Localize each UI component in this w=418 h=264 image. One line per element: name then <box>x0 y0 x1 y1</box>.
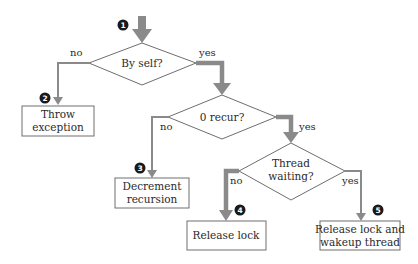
svg-text:Thread: Thread <box>272 157 310 169</box>
action-throw-exception: Throw exception <box>22 106 94 136</box>
svg-text:recursion: recursion <box>127 193 178 205</box>
action-decrement-recursion: Decrement recursion <box>115 178 189 208</box>
edge-by-self-yes <box>196 63 231 95</box>
decision-thread-waiting: Thread waiting? <box>239 143 345 200</box>
step-marker-5: 5 <box>373 205 384 216</box>
step-marker-1: 1 <box>118 20 129 31</box>
edge-zero-recur-yes <box>276 117 299 143</box>
svg-text:exception: exception <box>32 121 84 133</box>
svg-text:Throw: Throw <box>41 108 75 120</box>
edge-label-thread-waiting-no: no <box>230 175 242 186</box>
edge-label-by-self-yes: yes <box>198 47 216 58</box>
svg-text:0 recur?: 0 recur? <box>200 111 245 123</box>
svg-text:By self?: By self? <box>121 57 163 69</box>
edge-label-thread-waiting-yes: yes <box>341 175 359 186</box>
svg-text:5: 5 <box>375 206 380 215</box>
edge-label-zero-recur-yes: yes <box>298 121 316 132</box>
svg-text:3: 3 <box>137 164 142 173</box>
decision-zero-recur: 0 recur? <box>168 95 276 139</box>
step-marker-4: 4 <box>235 205 246 216</box>
svg-text:wakeup thread: wakeup thread <box>320 236 400 248</box>
action-release-lock: Release lock <box>187 221 266 250</box>
action-release-lock-and-wakeup: Release lock and wakeup thread <box>315 221 405 250</box>
svg-text:Release lock and: Release lock and <box>315 223 405 235</box>
decision-by-self: By self? <box>89 43 196 85</box>
svg-text:Release lock: Release lock <box>193 229 260 241</box>
svg-text:1: 1 <box>120 21 125 30</box>
edge-label-by-self-no: no <box>70 47 82 58</box>
svg-text:waiting?: waiting? <box>268 170 314 182</box>
step-marker-2: 2 <box>40 93 51 104</box>
svg-text:4: 4 <box>237 206 242 215</box>
start-arrow <box>132 16 152 43</box>
edge-label-zero-recur-no: no <box>160 121 172 132</box>
edge-by-self-no <box>53 63 89 105</box>
svg-text:Decrement: Decrement <box>123 180 183 192</box>
step-marker-3: 3 <box>135 163 146 174</box>
svg-text:2: 2 <box>42 94 47 103</box>
flowchart-canvas: 1 By self? no yes 2 Throw exception 0 re… <box>0 0 418 264</box>
